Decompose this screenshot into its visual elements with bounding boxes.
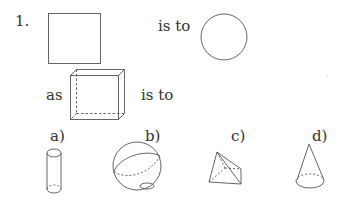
sphere-option-b[interactable] [113, 142, 161, 190]
circle-figure [201, 14, 247, 60]
cube-figure [71, 70, 125, 120]
pyramid-option-c[interactable] [209, 152, 241, 184]
cylinder-option-a[interactable] [47, 149, 61, 193]
square-figure [49, 14, 101, 64]
figures-canvas [0, 0, 341, 204]
cone-option-d[interactable] [296, 144, 324, 188]
